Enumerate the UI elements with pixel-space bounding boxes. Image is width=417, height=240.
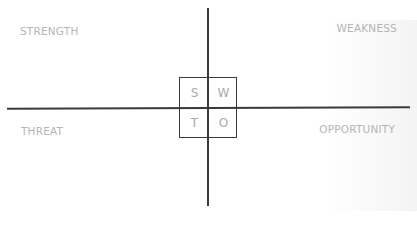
background-shading (327, 20, 417, 211)
threat-label: THREAT (21, 125, 63, 137)
cell-s: S (180, 78, 209, 108)
cell-t: T (180, 108, 209, 138)
opportunity-label: OPPORTUNITY (319, 123, 395, 135)
swot-center-grid: S W T O (179, 77, 237, 138)
weakness-label: WEAKNESS (336, 22, 397, 34)
strength-label: STRENGTH (20, 25, 79, 37)
cell-w: W (209, 78, 238, 108)
cell-o: O (209, 108, 238, 138)
